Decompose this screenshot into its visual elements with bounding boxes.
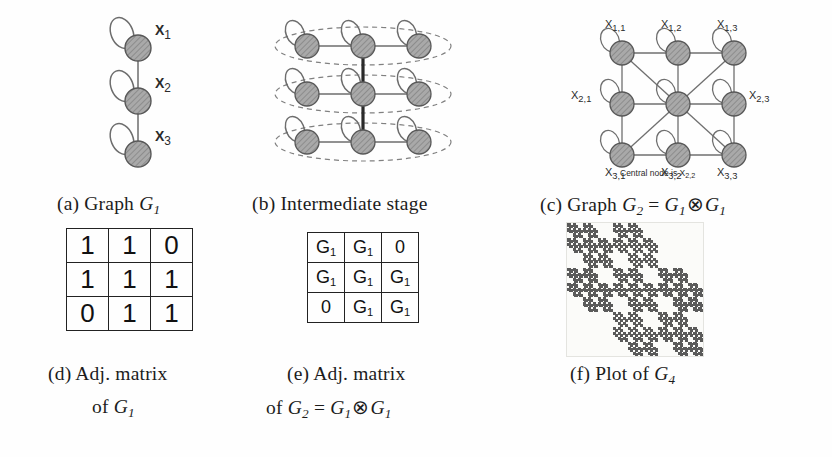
cell-e-2-2: G1 xyxy=(382,293,419,323)
panel-intermediate-stage xyxy=(255,10,475,175)
fractal-canvas xyxy=(567,223,703,356)
caption-e-line2: of G2 = G1⊗G1 xyxy=(266,396,392,422)
intermediate-stage-svg xyxy=(255,10,475,175)
cell-d-2-2: 1 xyxy=(151,297,193,331)
node-b-3-2 xyxy=(351,130,375,154)
node-c-3-2 xyxy=(666,143,690,167)
node-x3 xyxy=(125,141,151,167)
plot-g4 xyxy=(567,223,703,356)
table-row: 0 1 1 xyxy=(67,297,193,331)
cell-d-2-0: 0 xyxy=(67,297,109,331)
cell-d-0-2: 0 xyxy=(151,229,193,263)
node-b-1-3 xyxy=(407,34,431,58)
node-b-2-2 xyxy=(351,82,375,106)
cell-d-1-2: 1 xyxy=(151,263,193,297)
node-label-c-1-3: X1,3 xyxy=(717,18,737,33)
node-label-c-2-3: X2,3 xyxy=(749,89,769,104)
node-label-c-1-2: X1,2 xyxy=(661,18,681,33)
caption-d-line1: (d) Adj. matrix xyxy=(48,363,167,385)
node-label-x1: X1 xyxy=(155,22,171,42)
panel-graph-g1: X1 X2 X3 xyxy=(95,8,225,183)
cell-e-0-2: 0 xyxy=(382,233,419,263)
node-label-c-1-1: X1,1 xyxy=(605,18,625,33)
cell-d-0-0: 1 xyxy=(67,229,109,263)
node-b-1-2 xyxy=(351,34,375,58)
table-row: G1 G1 G1 xyxy=(308,263,419,293)
node-c-3-1 xyxy=(610,143,634,167)
kronecker-operator-c: ⊗ xyxy=(686,194,705,215)
central-node-note: Central node is X2,2 xyxy=(620,168,695,180)
node-c-2-2-center xyxy=(666,92,690,116)
figure-kronecker-graphs: X1 X2 X3 xyxy=(0,0,832,457)
node-label-x2: X2 xyxy=(155,75,171,95)
node-x2 xyxy=(125,88,151,114)
node-x1 xyxy=(125,35,151,61)
caption-f: (f) Plot of G4 xyxy=(570,363,675,388)
node-label-x3: X3 xyxy=(155,128,171,148)
caption-d-line2: of G1 xyxy=(92,396,135,421)
node-b-3-3 xyxy=(407,130,431,154)
kronecker-operator-e: ⊗ xyxy=(351,397,370,418)
cell-e-1-1: G1 xyxy=(345,263,382,293)
caption-c: (c) Graph G2 = G1⊗G1 xyxy=(540,193,726,219)
node-c-1-2 xyxy=(666,41,690,65)
node-b-3-1 xyxy=(295,130,319,154)
node-c-1-3 xyxy=(722,41,746,65)
node-c-1-1 xyxy=(610,41,634,65)
cell-e-2-0: 0 xyxy=(308,293,345,323)
caption-a: (a) Graph G1 xyxy=(57,193,160,218)
table-row: 1 1 0 xyxy=(67,229,193,263)
caption-b: (b) Intermediate stage xyxy=(252,193,427,215)
node-c-3-3 xyxy=(722,143,746,167)
cell-d-1-0: 1 xyxy=(67,263,109,297)
caption-e-line1: (e) Adj. matrix xyxy=(287,363,405,385)
cell-d-2-1: 1 xyxy=(109,297,151,331)
adjacency-matrix-g2: G1 G1 0 G1 G1 G1 0 G1 G1 xyxy=(307,232,419,323)
adjacency-matrix-g1: 1 1 0 1 1 1 0 1 1 xyxy=(66,228,193,331)
node-c-2-3 xyxy=(722,92,746,116)
node-b-2-3 xyxy=(407,82,431,106)
cell-e-2-1: G1 xyxy=(345,293,382,323)
node-b-2-1 xyxy=(295,82,319,106)
table-row: 0 G1 G1 xyxy=(308,293,419,323)
node-label-c-2-1: X2,1 xyxy=(571,89,591,104)
node-b-1-1 xyxy=(295,34,319,58)
cell-e-1-2: G1 xyxy=(382,263,419,293)
panel-graph-g2: X1,1 X1,2 X1,3 X2,1 X2,3 X3,1 X3,2 X3,3 xyxy=(595,10,785,190)
cell-d-1-1: 1 xyxy=(109,263,151,297)
cell-e-0-1: G1 xyxy=(345,233,382,263)
table-row: G1 G1 0 xyxy=(308,233,419,263)
table-row: 1 1 1 xyxy=(67,263,193,297)
node-label-c-3-3: X3,3 xyxy=(717,166,737,181)
node-c-2-1 xyxy=(610,92,634,116)
cell-d-0-1: 1 xyxy=(109,229,151,263)
cell-e-0-0: G1 xyxy=(308,233,345,263)
cell-e-1-0: G1 xyxy=(308,263,345,293)
